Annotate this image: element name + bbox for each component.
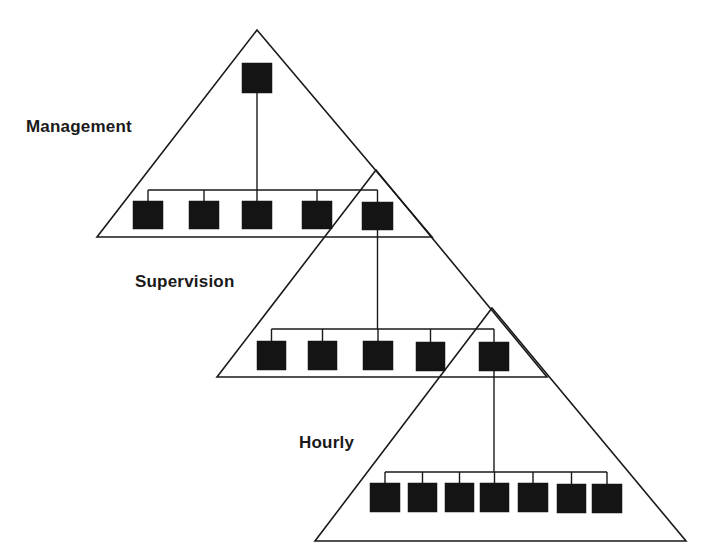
position-box-supervision-0 [257, 341, 286, 370]
tier-label-supervision: Supervision [135, 272, 235, 292]
position-box-hourly-0 [370, 483, 400, 512]
position-box-hourly-2 [445, 483, 474, 512]
position-box-management-0 [133, 201, 163, 229]
position-box-hourly-4 [518, 483, 548, 512]
position-box-supervision-2 [363, 341, 393, 370]
position-box-management-2 [242, 201, 272, 229]
position-box-supervision-1 [308, 341, 337, 370]
position-box-supervision-4 [479, 342, 509, 371]
position-box-head [242, 63, 272, 93]
position-box-hourly-3 [480, 483, 509, 512]
position-box-hourly-1 [408, 483, 437, 512]
tier-label-hourly: Hourly [299, 433, 354, 453]
position-box-hourly-6 [592, 484, 622, 513]
position-box-management-3 [302, 201, 332, 229]
position-box-supervision-3 [416, 342, 445, 371]
position-box-management-4 [362, 202, 393, 230]
org-hierarchy-diagram [0, 0, 708, 555]
position-box-hourly-5 [557, 484, 586, 513]
position-box-management-1 [189, 201, 219, 229]
tier-label-management: Management [26, 117, 132, 137]
